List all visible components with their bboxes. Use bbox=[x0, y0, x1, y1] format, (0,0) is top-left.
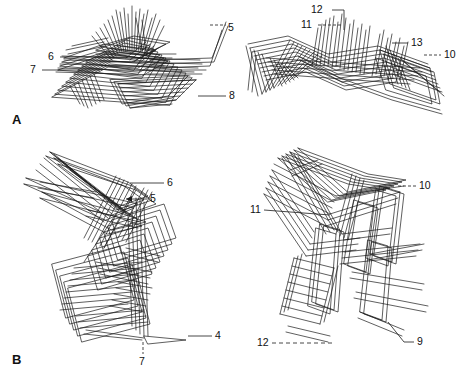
callout-a-left-6: 6 bbox=[48, 51, 54, 62]
callout-b-right-11: 11 bbox=[250, 204, 261, 215]
callout-b-right-12: 12 bbox=[257, 337, 269, 348]
callout-b-left-7: 7 bbox=[139, 356, 145, 367]
callout-leaders bbox=[42, 10, 441, 354]
callout-a-right-11: 11 bbox=[301, 19, 312, 30]
callout-a-left-5: 5 bbox=[228, 22, 234, 33]
figure-root: A B 5 6 7 8 12 11 13 10 6 5 4 7 10 11 12… bbox=[0, 0, 467, 381]
callout-a-right-12: 12 bbox=[311, 4, 323, 15]
panel-b-right-linework bbox=[264, 148, 428, 342]
callout-b-right-9: 9 bbox=[417, 336, 423, 347]
callout-a-left-7: 7 bbox=[30, 64, 36, 75]
callout-a-left-8: 8 bbox=[229, 90, 235, 101]
panel-letter-b: B bbox=[12, 352, 21, 367]
callout-b-left-4: 4 bbox=[215, 330, 221, 341]
panel-b-left-linework bbox=[24, 152, 186, 344]
callout-b-right-10: 10 bbox=[419, 180, 431, 191]
panel-a-right-linework bbox=[246, 14, 444, 114]
callout-a-right-10: 10 bbox=[444, 49, 456, 60]
figure-linework bbox=[0, 0, 467, 381]
panel-letter-a: A bbox=[12, 112, 21, 127]
callout-b-left-6: 6 bbox=[167, 177, 173, 188]
callout-a-right-13: 13 bbox=[411, 37, 423, 48]
callout-b-left-5: 5 bbox=[150, 193, 156, 204]
